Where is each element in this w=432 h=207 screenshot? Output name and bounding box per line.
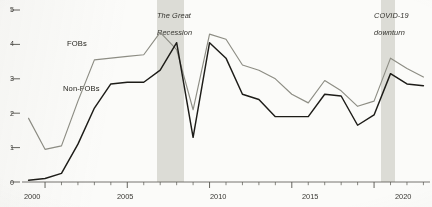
chart-plot-area [0,0,432,207]
y-axis-tick-marks [11,10,20,182]
chart-container: The Great Recession COVID-19 downturn 5 … [0,0,432,207]
series-line-fobs [29,32,424,149]
series-line-non-fobs [29,43,424,181]
x-axis-minor-ticks [45,182,423,188]
